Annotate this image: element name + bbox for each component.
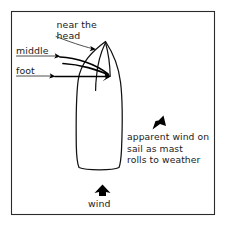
label-middle: middle	[16, 45, 49, 56]
figure-container: near the head middle foot apparent wind …	[0, 0, 226, 228]
sail-luff-lower-curve	[96, 77, 97, 91]
label-foot: foot	[16, 65, 35, 76]
arrowhead-down-left-icon-apparent-wind	[153, 116, 167, 130]
label-near-the-head-line2: head	[57, 30, 81, 41]
diagram-canvas: near the head middle foot apparent wind …	[0, 0, 226, 228]
arrowhead-up-icon-wind	[95, 185, 111, 197]
figure-border	[12, 12, 215, 215]
label-apparent-wind-line1: apparent wind on	[127, 131, 209, 142]
label-apparent-wind-line2: sail as mast	[127, 143, 183, 154]
label-wind: wind	[88, 198, 111, 209]
label-near-the-head-line1: near the	[57, 19, 98, 30]
label-apparent-wind-line3: rolls to weather	[127, 154, 201, 165]
